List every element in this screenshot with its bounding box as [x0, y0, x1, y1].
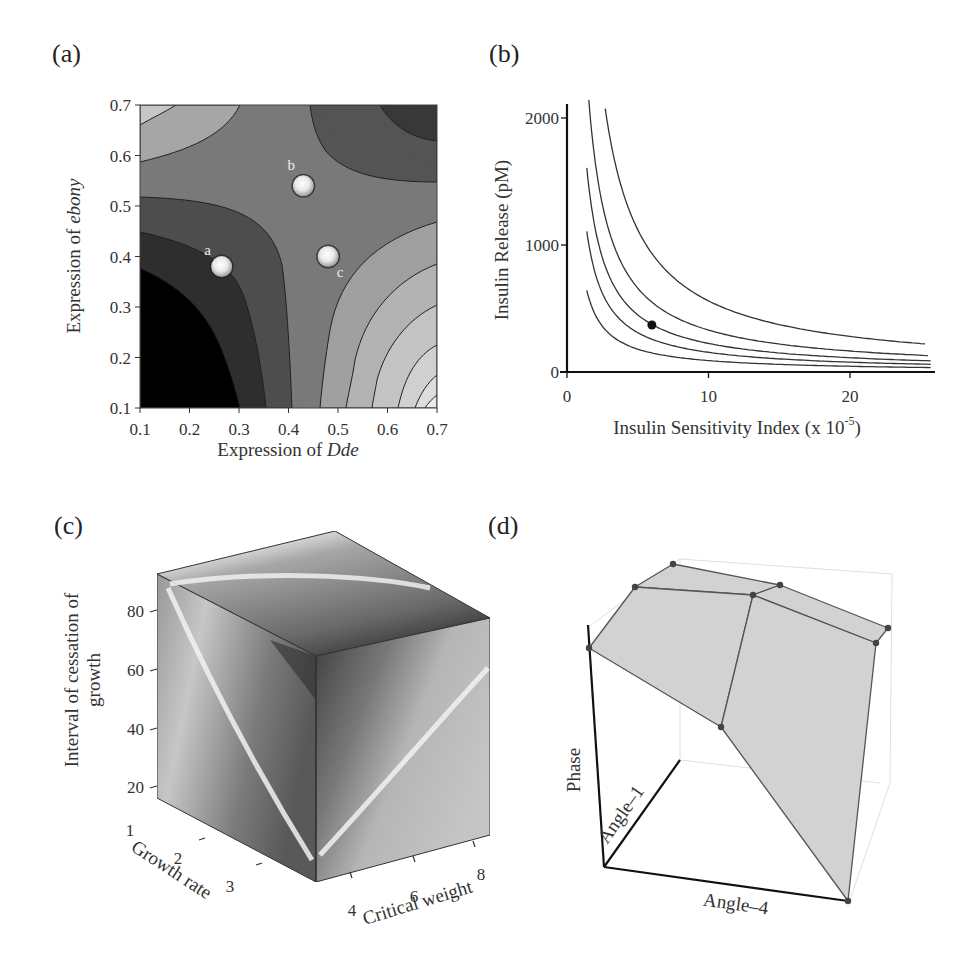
polyhedral-surface	[589, 564, 888, 901]
surface-vertex	[670, 561, 676, 567]
panel-c: (c) 20406080123468 Interval of cessation…	[54, 511, 490, 929]
surface-vertex	[586, 645, 592, 651]
panel-b-label: (b)	[489, 39, 519, 68]
z-tick-label: 20	[127, 778, 144, 797]
point-label: c	[337, 264, 344, 280]
x-tick-label: 10	[700, 387, 717, 406]
x-tick	[199, 838, 205, 840]
surface-vertex	[750, 592, 756, 598]
x-axis-label: Angle–4	[702, 889, 770, 919]
z-tick-label: 40	[127, 720, 144, 739]
surface-vertex	[632, 584, 638, 590]
x-tick-label: 0.1	[129, 420, 150, 439]
series-curve-1	[587, 290, 931, 367]
z-tick	[150, 610, 157, 612]
point-label: b	[288, 157, 296, 173]
x-axis-label: Growth rate	[128, 836, 216, 903]
y-tick	[473, 841, 475, 847]
surface-vertex	[873, 640, 879, 646]
surface-vertex	[845, 898, 851, 904]
contour-plot	[140, 105, 437, 408]
x-axis-label: Expression of Dde	[217, 439, 358, 460]
y-tick	[413, 856, 415, 862]
x-tick-label: 0	[563, 387, 572, 406]
data-point-b	[293, 175, 314, 196]
panel-a: (a) 0.10.20.30.40.50.60.70.10.20.30.40.5…	[52, 39, 448, 460]
data-point-a	[211, 256, 232, 277]
surface-face-4	[721, 595, 876, 901]
z-axis-label: Phase	[563, 748, 584, 792]
highlight-point	[647, 321, 656, 330]
figure: (a) 0.10.20.30.40.50.60.70.10.20.30.40.5…	[0, 0, 973, 976]
series-curve-3	[587, 168, 931, 361]
z-tick	[150, 786, 157, 788]
x-tick-label: 0.4	[278, 420, 300, 439]
panel-d: (d) Phase Angle–1 Angle–4	[488, 511, 892, 919]
x-tick	[256, 863, 262, 865]
y-tick-label: 0.1	[110, 399, 131, 418]
y-tick-label: 8	[477, 865, 486, 884]
y-tick-label: 1000	[525, 236, 559, 255]
x-tick-label: 1	[126, 821, 135, 840]
panel-b-axes: 01020010002000	[525, 109, 859, 406]
x-tick-label: 0.6	[377, 420, 398, 439]
x-tick-label: 0.7	[426, 420, 448, 439]
surface-vertex	[885, 625, 891, 631]
series-curve-2	[587, 231, 931, 364]
panel-b-point	[647, 321, 656, 330]
panel-b-curves	[587, 93, 931, 368]
y-tick-label: 0.4	[110, 248, 132, 267]
x-tick-label: 20	[842, 387, 859, 406]
y-tick-label: 0.7	[110, 96, 132, 115]
z-axis-label-line1: Interval of cessation of	[61, 592, 82, 767]
z-tick-label: 60	[127, 661, 144, 680]
z-tick-label: 80	[127, 602, 144, 621]
data-point-c	[318, 246, 339, 267]
x-tick-label: 0.3	[228, 420, 249, 439]
cube	[157, 531, 490, 882]
y-tick-label: 0.3	[110, 298, 131, 317]
y-tick-label: 0.5	[110, 197, 131, 216]
y-tick-label: 4	[348, 901, 357, 920]
z-axis-label-line2: growth	[83, 653, 104, 707]
panel-b: (b) 01020010002000 Insulin Sensitivity I…	[489, 39, 935, 439]
y-tick-label: 0	[551, 363, 560, 382]
panel-a-label: (a)	[52, 39, 81, 68]
y-axis-label: Insulin Release (pM)	[491, 160, 513, 320]
x-tick-label: 3	[226, 877, 235, 896]
x-tick-label: 0.5	[327, 420, 348, 439]
y-tick-label: 0.2	[110, 349, 131, 368]
panel-d-label: (d)	[488, 511, 518, 540]
surface-vertex	[777, 582, 783, 588]
y-axis-label: Critical weight	[360, 875, 475, 928]
panel-c-label: (c)	[54, 511, 83, 540]
point-label: a	[204, 242, 211, 258]
x-tick-label: 0.2	[179, 420, 200, 439]
z-tick	[150, 669, 157, 671]
z-tick	[150, 728, 157, 730]
series-curve-5	[605, 109, 925, 344]
y-tick-label: 0.6	[110, 147, 131, 166]
surface-vertex	[718, 724, 724, 730]
y-tick-label: 2000	[525, 109, 559, 128]
cube-right-face	[316, 618, 490, 882]
y-axis-label: Expression of ebony	[63, 178, 84, 334]
x-axis-label: Insulin Sensitivity Index (x 10-5)	[613, 414, 860, 439]
